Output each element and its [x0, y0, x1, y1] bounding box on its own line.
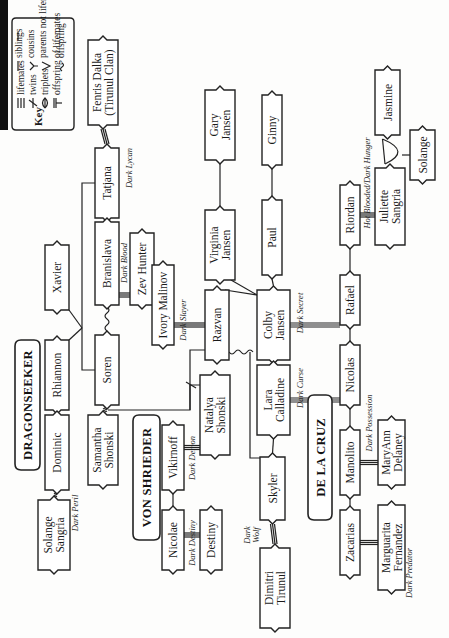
book-title-dark-wolf-2: Wolf — [251, 526, 261, 543]
person-destiny[interactable]: Destiny — [200, 506, 222, 574]
svg-text:DRAGONSEEKER: DRAGONSEEKER — [21, 349, 35, 460]
person-jasmine-name: Jasmine — [382, 84, 394, 121]
legend-key: Key lifemates twins triplets offspring o… — [12, 0, 74, 130]
person-dimitri-tirunul-name: Tirunul — [275, 571, 287, 605]
person-solange-sangria-name: Sangria — [54, 517, 67, 552]
person-fenris-dalka[interactable]: Fenris Dalka(Tirunul Clan) — [88, 36, 118, 129]
person-vikirnoff-name: Vikirnoff — [167, 436, 179, 479]
person-ivory-malinov[interactable]: Ivory Malinov — [152, 261, 174, 349]
person-tatjana-name: Tatjana — [101, 166, 114, 200]
person-gary-jansen[interactable]: GaryJansen — [205, 86, 235, 164]
book-title-dark-possession: Dark Possession — [364, 395, 374, 453]
person-juliette-sangria-name: Juliette — [378, 190, 390, 223]
person-branislava-name: Branislava — [101, 239, 113, 288]
person-ivory-malinov-name: Ivory Malinov — [157, 271, 170, 338]
person-soren[interactable]: Soren — [95, 331, 119, 409]
person-skyler-name: Skyler — [267, 473, 280, 503]
person-samantha-shonski-name: Samantha — [91, 427, 103, 472]
person-maryann-delaney-name: Delaney — [392, 433, 405, 472]
person-riordan[interactable]: Riordan — [340, 181, 360, 249]
person-fenris-dalka-name: Fenris Dalka — [91, 53, 103, 112]
person-razvan-name: Razvan — [211, 308, 223, 343]
key-label-triplets: triplets — [40, 68, 50, 95]
person-lara-calladine[interactable]: LaraCalladine — [257, 361, 290, 439]
person-fenris-dalka-name: (Tirunul Clan) — [103, 49, 116, 116]
person-rhiannon-name: Rhiannon — [51, 352, 63, 397]
person-rafael[interactable]: Rafael — [340, 271, 360, 329]
person-natalya-shonski-name: Shonski — [215, 396, 227, 433]
person-solange-name: Solange — [417, 136, 430, 173]
person-zev-hunter[interactable]: Zev Hunter — [130, 229, 154, 309]
key-title: Key — [32, 107, 44, 126]
person-dimitri-tirunul[interactable]: DimitriTirunul — [260, 544, 290, 632]
cousins-symbol-icon — [30, 62, 38, 70]
book-title-dark-peril: Dark Peril — [70, 494, 80, 532]
key-label-twins: twins — [28, 74, 38, 95]
book-title-dark-demon: Dark Demon — [187, 436, 197, 481]
person-manolito[interactable]: Manolito — [340, 426, 360, 499]
book-title-dark-blood: Dark Blood — [119, 242, 129, 284]
book-title-dark-secret: Dark Secret — [295, 292, 305, 334]
person-zev-hunter-name: Zev Hunter — [136, 242, 148, 295]
person-juliette-sangria[interactable]: JulietteSangria — [375, 164, 405, 249]
person-virginia-jansen[interactable]: VirginiaJansen — [205, 206, 235, 284]
person-razvan[interactable]: Razvan — [205, 286, 229, 364]
page-edge-bar — [0, 0, 8, 130]
person-branislava[interactable]: Branislava — [95, 218, 119, 309]
family-banner-von-shrieder: VON SHRIEDER — [133, 415, 160, 540]
person-nicolae[interactable]: Nicolae — [162, 506, 184, 574]
person-marguarita-fernandez[interactable]: MarguaritaFernandez — [378, 501, 405, 594]
person-tatjana[interactable]: Tatjana — [95, 144, 119, 222]
person-juliette-sangria-name: Sangria — [390, 189, 403, 224]
book-title-dark-lycan: Dark Lycan — [124, 148, 134, 189]
person-rafael-name: Rafael — [344, 285, 356, 315]
person-manolito-name: Manolito — [344, 441, 356, 483]
person-skyler[interactable]: Skyler — [260, 453, 285, 524]
person-dominic-name: Dominic — [51, 432, 63, 472]
person-natalya-shonski[interactable]: NatalyaShonski — [200, 371, 230, 459]
person-nicolas[interactable]: Nicolas — [340, 341, 360, 409]
person-colby-jansen[interactable]: ColbyJansen — [257, 286, 290, 364]
person-paul[interactable]: Paul — [262, 196, 282, 279]
person-xavier[interactable]: Xavier — [45, 241, 69, 314]
person-marguarita-fernandez-name: Fernandez — [392, 524, 404, 572]
person-nicolas-name: Nicolas — [344, 357, 356, 393]
book-title-dark-slayer: Dark Slayer — [178, 299, 188, 342]
person-lara-calladine-name: Calladine — [274, 378, 286, 422]
key-label-cousins: cousins — [26, 29, 36, 58]
key-label-siblings: siblings — [14, 28, 24, 58]
person-rhiannon[interactable]: Rhiannon — [45, 336, 69, 414]
family-tree-diagram: Key lifemates twins triplets offspring o… — [0, 0, 449, 638]
triplets-symbol-icon — [43, 98, 48, 108]
family-banner-de-la-cruz: DE LA CRUZ — [308, 395, 332, 520]
book-labels: Dark LycanDark BloodDark PerilDark Demon… — [70, 137, 414, 599]
family-tree-page: Key lifemates twins triplets offspring o… — [0, 0, 449, 638]
person-nicolae-name: Nicolae — [167, 522, 179, 558]
book-title-hot-blooded: Hot Blooded/Dark Hunger — [362, 137, 372, 230]
person-lara-calladine-name: Lara — [262, 389, 274, 410]
person-zacarias[interactable]: Zacarias — [340, 506, 360, 579]
person-soren-name: Soren — [101, 356, 113, 383]
person-colby-jansen-name: Jansen — [274, 309, 286, 340]
person-maryann-delaney[interactable]: MaryAnnDelaney — [378, 416, 405, 489]
offspring-of-lifemates-symbol-icon — [54, 98, 62, 108]
person-samantha-shonski[interactable]: SamanthaShonski — [88, 411, 118, 489]
svg-text:DE LA CRUZ: DE LA CRUZ — [314, 418, 328, 497]
person-ginny-name: Ginny — [266, 115, 279, 144]
person-vikirnoff[interactable]: Vikirnoff — [162, 421, 184, 494]
book-title-dark-curse: Dark Curse — [295, 368, 305, 409]
person-ginny[interactable]: Ginny — [262, 91, 282, 169]
svg-text:VON SHRIEDER: VON SHRIEDER — [140, 427, 154, 527]
key-label-parents-not-lifemates: parents not lifemates — [38, 0, 48, 58]
person-dimitri-tirunul-name: Dimitri — [263, 571, 275, 605]
person-samantha-shonski-name: Shonski — [103, 431, 115, 468]
person-riordan-name: Riordan — [344, 196, 356, 233]
person-paul-name: Paul — [266, 227, 278, 247]
person-virginia-jansen-name: Jansen — [220, 229, 232, 260]
family-banner-dragonseeker: DRAGONSEEKER — [15, 340, 40, 470]
key-label-offspring: offspring — [56, 23, 66, 58]
person-dominic[interactable]: Dominic — [45, 411, 69, 494]
person-solange[interactable]: Solange — [410, 126, 435, 184]
person-jasmine[interactable]: Jasmine — [375, 66, 400, 139]
person-solange-sangria[interactable]: SolangeSangria — [38, 496, 70, 574]
